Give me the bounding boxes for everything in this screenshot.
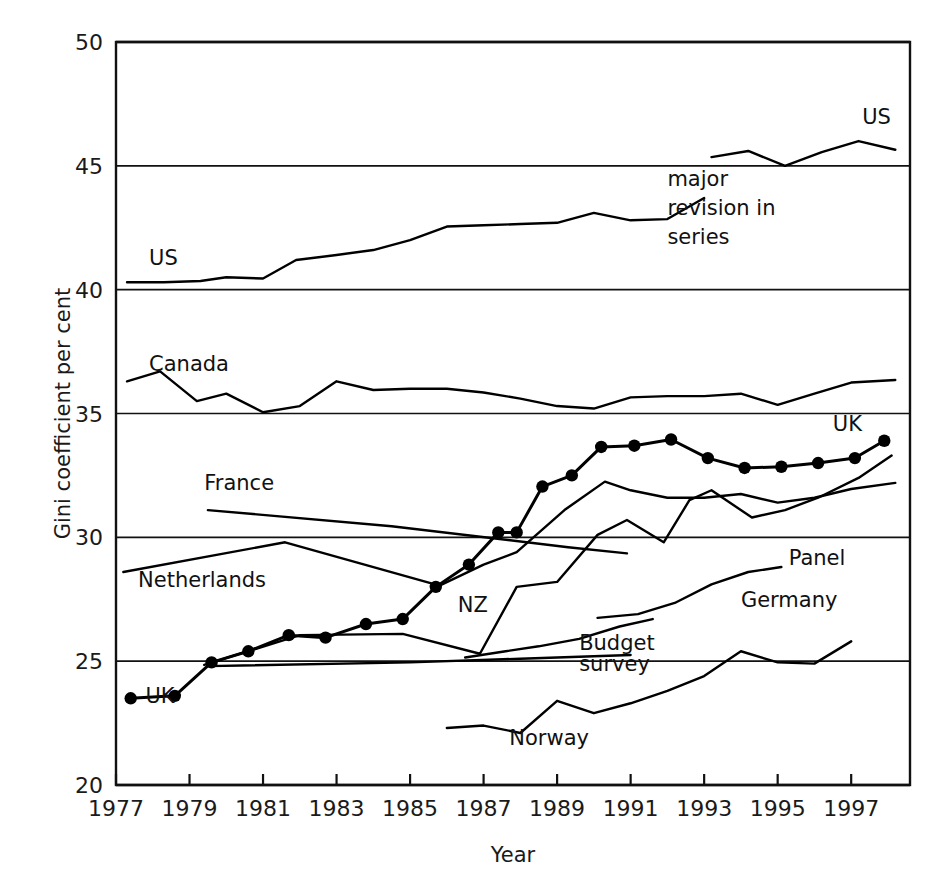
series-marker-uk	[360, 618, 372, 630]
series-label-norway: Norway	[509, 726, 589, 750]
series-line-france	[208, 510, 627, 553]
y-tick-label-30: 30	[75, 525, 103, 550]
y-tick-label-35: 35	[75, 402, 103, 427]
series-marker-uk	[878, 435, 890, 447]
series-label-nz: NZ	[458, 593, 488, 617]
series-label-us-revised: US	[862, 105, 891, 129]
series-label-uk: UK	[145, 684, 175, 708]
major-revision-note-line-1: major	[667, 167, 728, 191]
x-tick-label-1977: 1977	[88, 796, 144, 821]
series-marker-uk	[125, 692, 137, 704]
series-marker-uk	[665, 433, 677, 445]
y-tick-group: 20253035404550	[75, 30, 103, 798]
series-label-uk-2: UK	[833, 412, 863, 436]
series-label-germany-panel: Panel	[789, 546, 846, 570]
series-marker-uk	[319, 631, 331, 643]
series-line-canada	[127, 371, 895, 412]
x-tick-label-1991: 1991	[603, 796, 659, 821]
series-marker-uk	[702, 452, 714, 464]
x-axis-title: Year	[490, 843, 536, 867]
x-tick-label-1993: 1993	[676, 796, 732, 821]
series-marker-uk	[510, 526, 522, 538]
major-revision-note-line-2: revision in	[667, 196, 775, 220]
series-line-us-revised	[712, 141, 896, 166]
series-group	[123, 141, 895, 733]
series-label-budget-survey-flat-2: survey	[579, 652, 650, 676]
x-tick-label-1995: 1995	[750, 796, 806, 821]
series-line-us	[127, 198, 704, 282]
series-marker-uk	[566, 469, 578, 481]
x-tick-label-1989: 1989	[529, 796, 585, 821]
y-axis-title: Gini coefficient per cent	[51, 288, 75, 540]
x-tick-label-1983: 1983	[309, 796, 365, 821]
series-label-germany-budget-survey: Germany	[741, 588, 838, 612]
x-tick-label-1997: 1997	[823, 796, 879, 821]
y-tick-label-40: 40	[75, 278, 103, 303]
x-tick-group: 1977197919811983198519871989199119931995…	[88, 774, 879, 821]
series-marker-uk	[849, 452, 861, 464]
y-tick-label-45: 45	[75, 154, 103, 179]
y-tick-label-20: 20	[75, 773, 103, 798]
gini-coefficient-line-chart: 1977197919811983198519871989199119931995…	[0, 0, 951, 889]
series-marker-uk	[628, 439, 640, 451]
x-tick-label-1979: 1979	[162, 796, 218, 821]
annotations-group: majorrevision inseries	[667, 167, 775, 249]
series-label-france: France	[204, 471, 274, 495]
series-marker-uk	[492, 526, 504, 538]
major-revision-note-line-3: series	[667, 225, 729, 249]
x-tick-label-1981: 1981	[235, 796, 291, 821]
series-marker-uk	[536, 480, 548, 492]
x-tick-label-1987: 1987	[456, 796, 512, 821]
series-label-netherlands: Netherlands	[138, 568, 266, 592]
series-marker-uk	[775, 461, 787, 473]
y-tick-label-25: 25	[75, 649, 103, 674]
chart-canvas: 1977197919811983198519871989199119931995…	[0, 0, 951, 889]
x-tick-label-1985: 1985	[382, 796, 438, 821]
series-marker-uk	[397, 613, 409, 625]
series-marker-uk	[812, 457, 824, 469]
series-marker-uk	[738, 462, 750, 474]
gridlines-group	[116, 42, 910, 785]
series-marker-uk	[595, 441, 607, 453]
series-label-canada: Canada	[149, 352, 229, 376]
series-label-us: US	[149, 246, 178, 270]
y-tick-label-50: 50	[75, 30, 103, 55]
axis-titles: Gini coefficient per centYear	[51, 288, 536, 867]
